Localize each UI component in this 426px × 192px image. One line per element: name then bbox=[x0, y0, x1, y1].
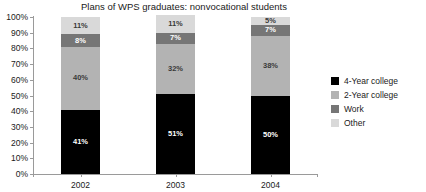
bar-segment-other-2003[interactable]: 11% bbox=[156, 15, 195, 32]
y-tick-label: 90% bbox=[11, 28, 28, 37]
legend-swatch-icon bbox=[331, 91, 339, 99]
bar-segment-label: 38% bbox=[263, 62, 278, 70]
y-tick-mark bbox=[30, 143, 33, 144]
bar-segment-2-year-college-2004[interactable]: 38% bbox=[251, 36, 290, 96]
y-tick-label: 60% bbox=[11, 75, 28, 84]
x-tick-mark bbox=[317, 174, 318, 177]
bar-segment-label: 41% bbox=[73, 138, 88, 146]
bar-segment-4-year-college-2003[interactable]: 51% bbox=[156, 94, 195, 174]
legend-swatch-icon bbox=[331, 119, 339, 127]
bar-segment-4-year-college-2002[interactable]: 41% bbox=[61, 110, 100, 174]
y-tick-label: 10% bbox=[11, 154, 28, 163]
bar-stack-2002[interactable]: 11% 8% 40% 41% bbox=[61, 17, 100, 174]
legend-item-4-year-college[interactable]: 4-Year college bbox=[331, 74, 423, 88]
x-tick-mark bbox=[271, 174, 272, 177]
chart-title: Plans of WPS graduates: nonvocational st… bbox=[44, 1, 324, 12]
y-tick-mark bbox=[30, 80, 33, 81]
x-tick-mark bbox=[81, 174, 82, 177]
y-tick-mark bbox=[30, 127, 33, 128]
y-tick-label: 100% bbox=[6, 13, 28, 22]
bar-segment-other-2002[interactable]: 11% bbox=[61, 17, 100, 34]
y-tick-mark bbox=[30, 33, 33, 34]
y-tick-mark bbox=[30, 96, 33, 97]
bar-segment-work-2004[interactable]: 7% bbox=[251, 25, 290, 36]
bar-segment-work-2003[interactable]: 7% bbox=[156, 33, 195, 44]
y-axis-line bbox=[33, 16, 34, 175]
y-tick-label: 0% bbox=[16, 170, 28, 179]
y-tick-label: 50% bbox=[11, 91, 28, 100]
x-tick-mark bbox=[176, 174, 177, 177]
bar-segment-label: 32% bbox=[168, 65, 183, 73]
bar-segment-4-year-college-2004[interactable]: 50% bbox=[251, 96, 290, 175]
x-tick-mark bbox=[33, 174, 34, 177]
plot-area: 0% 10% 20% 30% 40% 50% 60% 70% bbox=[33, 16, 318, 175]
x-category-label-2003: 2003 bbox=[146, 180, 206, 190]
bar-segment-label: 11% bbox=[168, 20, 183, 28]
bar-stack-2004[interactable]: 5% 7% 38% 50% bbox=[251, 17, 290, 174]
y-tick-mark bbox=[30, 17, 33, 18]
legend-item-label: 4-Year college bbox=[344, 77, 398, 86]
bar-segment-label: 5% bbox=[265, 17, 276, 25]
y-tick-mark bbox=[30, 64, 33, 65]
bar-segment-label: 11% bbox=[73, 22, 88, 30]
legend-item-work[interactable]: Work bbox=[331, 102, 423, 116]
bar-segment-work-2002[interactable]: 8% bbox=[61, 34, 100, 47]
bar-segment-2-year-college-2002[interactable]: 40% bbox=[61, 47, 100, 110]
legend-swatch-icon bbox=[331, 105, 339, 113]
bar-stack-2003[interactable]: 11% 7% 32% 51% bbox=[156, 17, 195, 174]
legend: 4-Year college 2-Year college Work Other bbox=[331, 74, 423, 130]
bar-segment-label: 50% bbox=[263, 131, 278, 139]
stacked-bar-chart: Plans of WPS graduates: nonvocational st… bbox=[0, 0, 426, 192]
legend-item-label: Other bbox=[344, 119, 365, 128]
legend-item-other[interactable]: Other bbox=[331, 116, 423, 130]
y-tick-label: 70% bbox=[11, 60, 28, 69]
legend-item-2-year-college[interactable]: 2-Year college bbox=[331, 88, 423, 102]
bar-segment-label: 7% bbox=[170, 34, 181, 42]
bar-segment-label: 7% bbox=[265, 26, 276, 34]
bar-segment-label: 51% bbox=[168, 130, 183, 138]
legend-item-label: Work bbox=[344, 105, 364, 114]
legend-swatch-icon bbox=[331, 77, 339, 85]
legend-item-label: 2-Year college bbox=[344, 91, 398, 100]
x-category-label-2002: 2002 bbox=[51, 180, 111, 190]
y-tick-mark bbox=[30, 158, 33, 159]
bar-segment-2-year-college-2003[interactable]: 32% bbox=[156, 44, 195, 94]
bar-segment-label: 40% bbox=[73, 74, 88, 82]
y-tick-label: 40% bbox=[11, 107, 28, 116]
y-tick-mark bbox=[30, 48, 33, 49]
bar-segment-other-2004[interactable]: 5% bbox=[251, 17, 290, 25]
y-tick-label: 80% bbox=[11, 44, 28, 53]
bar-segment-label: 8% bbox=[75, 37, 86, 45]
y-tick-label: 20% bbox=[11, 138, 28, 147]
y-tick-label: 30% bbox=[11, 122, 28, 131]
y-tick-mark bbox=[30, 111, 33, 112]
x-category-label-2004: 2004 bbox=[241, 180, 301, 190]
